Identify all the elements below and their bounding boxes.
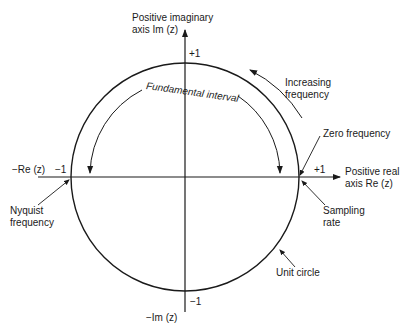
negative-real-axis-label: −Re (z) [12, 164, 45, 176]
negative-imaginary-axis-label: −Im (z) [146, 312, 177, 324]
sampling-rate-label: Sampling rate [323, 205, 365, 229]
positive-real-axis-label: Positive real axis Re (z) [345, 166, 399, 190]
increasing-frequency-label: Increasing frequency [285, 77, 331, 101]
tick-right: +1 [314, 164, 325, 176]
tick-left: −1 [55, 164, 66, 176]
tick-bottom: −1 [190, 296, 201, 308]
unit-circle-leader [280, 250, 295, 267]
fundamental-interval-arc-left [90, 90, 142, 173]
nyquist-frequency-leader [38, 180, 69, 205]
tick-top: +1 [189, 48, 200, 60]
nyquist-frequency-label: Nyquist frequency [10, 205, 54, 229]
zero-frequency-label: Zero frequency [323, 128, 390, 140]
fundamental-interval-arc-right [238, 96, 280, 173]
sampling-rate-leader [302, 181, 325, 205]
unit-circle-label: Unit circle [276, 267, 320, 279]
positive-imaginary-axis-label: Positive imaginary axis Im (z) [132, 12, 213, 36]
